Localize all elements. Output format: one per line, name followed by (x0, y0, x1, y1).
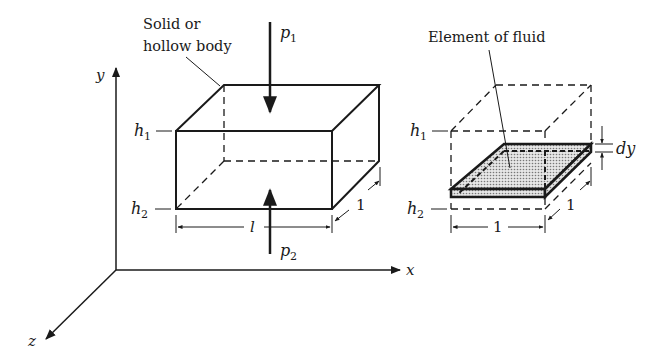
svg-text:1: 1 (420, 130, 427, 143)
depth-dimension-left: 1 (335, 167, 380, 221)
callout-line-1: Solid or (143, 16, 201, 32)
svg-text:Element of fluid: Element of fluid (428, 29, 546, 45)
solid-body-callout: Solid or hollow body (143, 16, 232, 86)
width-dimension-right: 1 (451, 215, 545, 236)
fluid-element-box (451, 85, 591, 209)
fluid-element-diagram: y x z Solid or hollow body p 1 p 2 h (0, 0, 668, 363)
svg-text:1: 1 (290, 32, 297, 45)
svg-text:h: h (134, 121, 144, 140)
svg-text:l: l (250, 218, 255, 236)
svg-text:1: 1 (144, 130, 151, 143)
height-h1-right: h 1 (410, 121, 448, 143)
fluid-slab (451, 144, 591, 197)
svg-text:h: h (131, 199, 141, 218)
solid-body-box (176, 85, 379, 209)
length-dimension: l (176, 215, 332, 236)
svg-text:p: p (280, 23, 290, 42)
thickness-dimension-dy: dy (595, 126, 636, 170)
svg-text:h: h (410, 121, 420, 140)
height-h2-right: h 2 (407, 199, 447, 221)
svg-text:p: p (280, 241, 290, 260)
z-axis-label: z (27, 332, 36, 350)
callout-line-2: hollow body (143, 38, 232, 54)
x-axis-label: x (406, 261, 415, 279)
y-axis-label: y (95, 66, 105, 84)
height-h1-left: h 1 (134, 121, 172, 143)
force-p1: p 1 (270, 22, 297, 112)
svg-text:h: h (407, 199, 417, 218)
svg-text:2: 2 (290, 250, 297, 263)
height-h2-left: h 2 (131, 199, 171, 221)
svg-text:1: 1 (493, 218, 503, 236)
svg-text:2: 2 (141, 208, 148, 221)
svg-text:1: 1 (356, 196, 366, 214)
svg-text:dy: dy (616, 139, 636, 158)
svg-text:1: 1 (566, 196, 576, 214)
z-axis (46, 270, 116, 339)
svg-text:2: 2 (417, 208, 424, 221)
